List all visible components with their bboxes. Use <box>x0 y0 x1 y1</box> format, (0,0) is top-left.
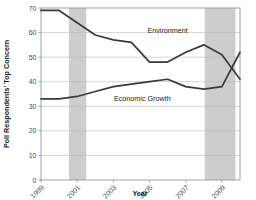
y-tick-label-20: 20 <box>29 127 37 134</box>
y-axis-tick-group: 010203040506070 <box>29 5 41 184</box>
x-tick-label-2007: 2007 <box>174 184 190 200</box>
recession-2008 <box>205 8 236 180</box>
y-tick-label-30: 30 <box>29 103 37 110</box>
x-axis-title: Year <box>132 189 147 198</box>
x-tick-label-1999: 1999 <box>29 184 45 200</box>
x-axis-tick-group: 199920012003200520072009 <box>29 180 226 200</box>
y-tick-label-70: 70 <box>29 5 37 12</box>
line-chart: 010203040506070 199920012003200520072009… <box>0 0 256 200</box>
x-tick-label-2003: 2003 <box>102 184 118 200</box>
y-axis-title: Poll Respondents' Top Concern <box>2 40 11 148</box>
series-label-group: EnvironmentEconomic Growth <box>114 26 188 104</box>
y-tick-label-10: 10 <box>29 152 37 159</box>
x-tick-label-2001: 2001 <box>65 184 81 200</box>
y-tick-label-60: 60 <box>29 29 37 36</box>
y-tick-label-50: 50 <box>29 54 37 61</box>
y-tick-label-40: 40 <box>29 78 37 85</box>
x-tick-label-2009: 2009 <box>210 184 226 200</box>
series-label-environment: Environment <box>147 26 187 35</box>
y-tick-label-0: 0 <box>33 177 37 184</box>
series-label-economic-growth: Economic Growth <box>114 94 171 103</box>
chart-canvas: 010203040506070 199920012003200520072009… <box>0 0 256 200</box>
